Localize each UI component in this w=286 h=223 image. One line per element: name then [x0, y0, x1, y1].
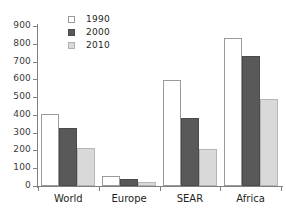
x-axis-tick	[160, 187, 161, 191]
y-axis-tick-label: 0	[0, 181, 31, 190]
x-axis-tick	[281, 187, 282, 191]
x-axis-label-africa: Africa	[211, 194, 286, 204]
y-axis-tick-label: 900	[0, 21, 31, 30]
bar-chart: 1990 2000 2010 0100200300400500600700800…	[0, 0, 286, 223]
bar-africa-2010	[260, 99, 278, 186]
bar-sear-2000	[181, 118, 199, 186]
bar-europe-1990	[102, 176, 120, 186]
bar-world-1990	[41, 114, 59, 186]
bar-africa-2000	[242, 56, 260, 186]
x-axis-tick	[220, 187, 221, 191]
bar-europe-2010	[138, 182, 156, 186]
bar-sear-1990	[163, 80, 181, 186]
x-axis-tick	[38, 187, 39, 191]
bar-africa-1990	[224, 38, 242, 186]
legend-label-1990: 1990	[86, 15, 110, 24]
bar-sear-2010	[199, 149, 217, 186]
y-axis-tick-label: 100	[0, 163, 31, 172]
legend-swatch-1990	[68, 16, 75, 23]
bar-world-2010	[77, 148, 95, 186]
bar-world-2000	[59, 128, 77, 186]
y-axis-tick-label: 500	[0, 92, 31, 101]
y-axis-tick-label: 400	[0, 110, 31, 119]
legend-item-1990: 1990	[68, 13, 110, 26]
bar-europe-2000	[120, 179, 138, 186]
plot-area	[38, 26, 281, 186]
y-axis-tick-label: 600	[0, 74, 31, 83]
x-axis-tick	[99, 187, 100, 191]
y-axis-tick-label: 800	[0, 39, 31, 48]
y-axis-tick-label: 300	[0, 128, 31, 137]
x-axis-line	[33, 186, 283, 187]
y-axis-tick-label: 700	[0, 57, 31, 66]
y-axis-tick-label: 200	[0, 145, 31, 154]
